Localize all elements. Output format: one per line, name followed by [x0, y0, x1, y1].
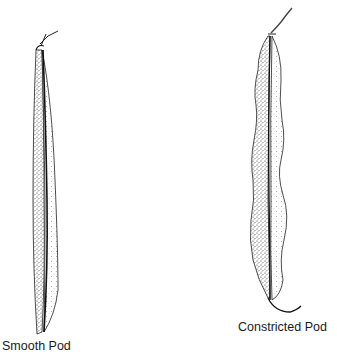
constricted-pod-beak	[268, 298, 301, 312]
constricted-pod-label: Constricted Pod	[238, 320, 327, 334]
constricted-pod-stem	[271, 8, 292, 33]
smooth-pod-drawing	[33, 31, 58, 334]
smooth-pod-label: Smooth Pod	[2, 339, 71, 353]
pod-illustration	[0, 0, 337, 359]
constricted-pod-drawing	[250, 8, 301, 312]
